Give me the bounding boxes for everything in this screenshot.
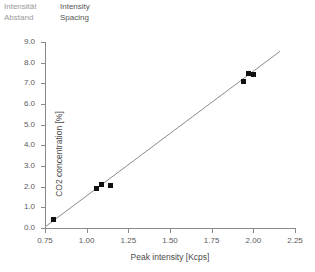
legend-row-0-de: Intensität bbox=[4, 1, 60, 12]
legend-header: Intensität Intensity Abstand Spacing bbox=[4, 1, 90, 23]
y-tick: 6.0 bbox=[41, 104, 46, 105]
y-tick-label: 2.0 bbox=[24, 183, 35, 191]
y-tick-label: 4.0 bbox=[24, 141, 35, 149]
y-tick: 1.0 bbox=[41, 207, 46, 208]
y-tick-label: 1.0 bbox=[24, 203, 35, 211]
y-tick: 9.0 bbox=[41, 42, 46, 43]
x-tick-label: 2.25 bbox=[287, 237, 303, 245]
y-tick-label: 8.0 bbox=[24, 59, 35, 67]
x-tick-label: 1.50 bbox=[162, 237, 178, 245]
x-tick-label: 2.00 bbox=[246, 237, 262, 245]
regression-line bbox=[45, 42, 295, 228]
y-tick: 8.0 bbox=[41, 63, 46, 64]
y-tick-label: 0.0 bbox=[24, 224, 35, 232]
plot-area: 0.01.02.03.04.05.06.07.08.09.0 0.751.001… bbox=[45, 42, 295, 228]
data-point bbox=[241, 79, 246, 84]
chart-page: Intensität Intensity Abstand Spacing 0.0… bbox=[0, 0, 315, 272]
data-point bbox=[251, 72, 256, 77]
legend-row-0-en: Intensity bbox=[60, 1, 90, 12]
legend-row-1-de: Abstand bbox=[4, 12, 60, 23]
x-tick: 2.25 bbox=[295, 228, 296, 233]
x-tick: 1.25 bbox=[128, 228, 129, 233]
x-axis-title: Peak intensity [Kcps] bbox=[45, 252, 295, 262]
data-point bbox=[108, 183, 113, 188]
x-tick: 1.50 bbox=[170, 228, 171, 233]
data-point bbox=[99, 182, 104, 187]
x-tick: 1.75 bbox=[212, 228, 213, 233]
y-tick-label: 9.0 bbox=[24, 38, 35, 46]
x-tick-label: 1.00 bbox=[79, 237, 95, 245]
legend-row-1-en: Spacing bbox=[60, 12, 90, 23]
y-tick-label: 5.0 bbox=[24, 121, 35, 129]
y-tick: 4.0 bbox=[41, 145, 46, 146]
y-tick-label: 3.0 bbox=[24, 162, 35, 170]
x-tick-label: 1.25 bbox=[121, 237, 137, 245]
x-tick-label: 0.75 bbox=[37, 237, 53, 245]
y-tick: 5.0 bbox=[41, 125, 46, 126]
y-tick-label: 6.0 bbox=[24, 100, 35, 108]
y-axis-title: CO2 concentration [%] bbox=[54, 84, 64, 224]
x-tick: 2.00 bbox=[253, 228, 254, 233]
x-tick-label: 1.75 bbox=[204, 237, 220, 245]
x-tick: 0.75 bbox=[45, 228, 46, 233]
y-tick: 7.0 bbox=[41, 83, 46, 84]
y-tick-label: 7.0 bbox=[24, 79, 35, 87]
y-tick: 2.0 bbox=[41, 187, 46, 188]
y-tick: 3.0 bbox=[41, 166, 46, 167]
x-tick: 1.00 bbox=[87, 228, 88, 233]
